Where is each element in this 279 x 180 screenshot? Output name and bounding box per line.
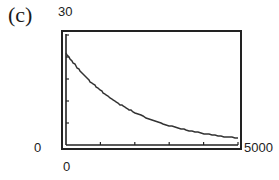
- data-curve: [66, 53, 238, 138]
- plot-frame-outer: [62, 31, 241, 149]
- calculator-plot: [0, 0, 279, 180]
- axis-ticks: [66, 35, 238, 145]
